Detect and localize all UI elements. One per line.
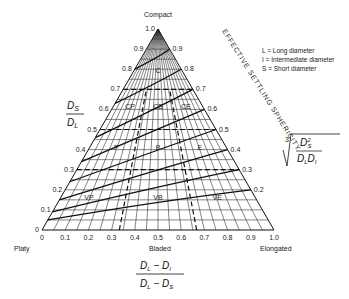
bottom-axis-tick: 0.1 bbox=[60, 234, 70, 241]
bottom-axis-tick: 1.0 bbox=[269, 234, 279, 241]
bottom-axis-tick: 0.8 bbox=[223, 234, 233, 241]
svg-text:DL − DI: DL − DI bbox=[140, 260, 171, 272]
vertex-platy: Platy bbox=[14, 245, 30, 253]
left-axis-label: DS DL bbox=[66, 100, 84, 129]
right-axis-tick: 0.4 bbox=[231, 146, 241, 153]
right-axis-tick: 0.8 bbox=[184, 65, 194, 72]
legend-item-long: L = Long diameter bbox=[262, 46, 334, 55]
legend: L = Long diameter I = Intermediate diame… bbox=[262, 46, 334, 73]
vertex-compact: Compact bbox=[144, 11, 172, 19]
left-axis-tick: 0 bbox=[35, 226, 39, 233]
left-axis-tick: 0.2 bbox=[52, 186, 62, 193]
svg-text:DL: DL bbox=[67, 117, 78, 129]
right-axis-tick: 0.5 bbox=[219, 126, 229, 133]
class-label-cp: CP bbox=[125, 103, 135, 110]
left-axis-tick: 0.7 bbox=[110, 85, 120, 92]
right-axis-tick: 0.3 bbox=[242, 166, 252, 173]
left-axis-tick: 1.0 bbox=[145, 25, 155, 32]
bottom-axis-tick: 0 bbox=[40, 234, 44, 241]
left-axis-tick: 0.6 bbox=[99, 105, 109, 112]
left-axis-tick: 0.5 bbox=[87, 126, 97, 133]
bottom-axis-tick: 0.5 bbox=[153, 234, 163, 241]
class-label-e: E bbox=[197, 144, 202, 151]
svg-text:DS: DS bbox=[67, 100, 79, 112]
right-axis-tick: 0.7 bbox=[196, 85, 206, 92]
left-axis-tick: 0.8 bbox=[122, 65, 132, 72]
left-axis-tick: 0.1 bbox=[41, 206, 51, 213]
class-label-b: B bbox=[156, 144, 161, 151]
right-axis-tick: 0.2 bbox=[254, 186, 264, 193]
legend-item-short: S = Short diameter bbox=[262, 64, 334, 73]
svg-text:D2S: D2S bbox=[300, 137, 312, 149]
bottom-axis-tick: 0.3 bbox=[107, 234, 117, 241]
class-label-vp: VP bbox=[84, 194, 94, 201]
class-label-ce: CE bbox=[181, 103, 191, 110]
left-axis-tick: 0.3 bbox=[64, 166, 74, 173]
bottom-axis-tick: 0.7 bbox=[200, 234, 210, 241]
bottom-axis-tick: 0.2 bbox=[84, 234, 94, 241]
svg-text:DL − DS: DL − DS bbox=[140, 278, 173, 290]
bottom-axis-tick: 0.9 bbox=[246, 234, 256, 241]
left-axis-tick: 0.4 bbox=[76, 146, 86, 153]
class-label-p: P bbox=[114, 144, 119, 151]
vertex-elongated: Elongated bbox=[260, 245, 292, 253]
ternary-form-diagram: 00.10.20.30.40.50.60.70.80.91.000.10.20.… bbox=[0, 0, 349, 299]
vertex-bladed: Bladed bbox=[149, 245, 171, 252]
class-label-ve: VE bbox=[212, 194, 222, 201]
svg-text:DLDI: DLDI bbox=[297, 153, 317, 165]
bottom-axis-tick: 0.4 bbox=[130, 234, 140, 241]
class-label-cb: CB bbox=[153, 103, 163, 110]
legend-item-intermediate: I = Intermediate diameter bbox=[262, 55, 334, 64]
left-axis-tick: 0.9 bbox=[134, 45, 144, 52]
bottom-axis-tick: 0.6 bbox=[176, 234, 186, 241]
right-axis-tick: 0.9 bbox=[173, 45, 183, 52]
svg-text:3: 3 bbox=[285, 136, 289, 143]
class-label-c: C bbox=[155, 67, 160, 74]
class-label-vb: VB bbox=[153, 194, 163, 201]
right-axis-tick: 0.6 bbox=[207, 105, 217, 112]
bottom-axis-label: DL − DI DL − DS bbox=[136, 260, 184, 290]
